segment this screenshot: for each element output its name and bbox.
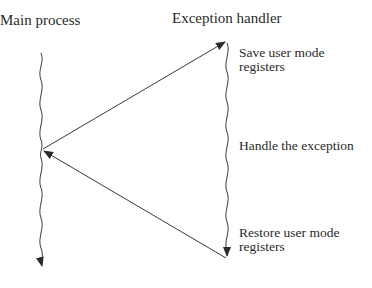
step-save-line1: Save user mode [239,46,324,60]
step-handle-line1: Handle the exception [239,139,354,153]
exception-entry-arrow [43,42,225,149]
exception-handler-title: Exception handler [172,10,282,27]
exception-return-arrow [44,151,226,258]
step-restore-line2: registers [239,240,339,254]
exception-handler-timeline [226,43,228,256]
step-restore-registers: Restore user mode registers [239,226,339,254]
main-process-timeline [40,53,43,266]
step-restore-line1: Restore user mode [239,226,339,240]
step-save-registers: Save user mode registers [239,46,324,74]
step-save-line2: registers [239,60,324,74]
step-handle-exception: Handle the exception [239,139,354,153]
main-process-title: Main process [0,12,80,29]
